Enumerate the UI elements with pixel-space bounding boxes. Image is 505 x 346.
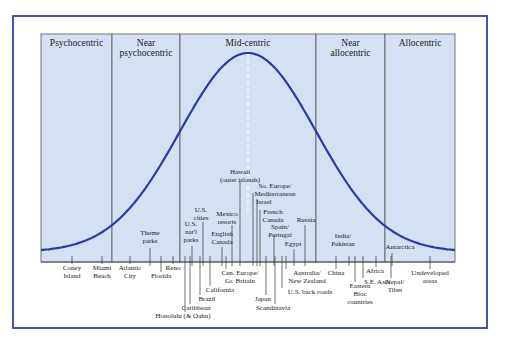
svg-text:Israel: Israel	[256, 198, 272, 206]
svg-text:Caribbean: Caribbean	[182, 304, 211, 312]
svg-text:English: English	[211, 230, 233, 238]
svg-text:nat'l: nat'l	[185, 228, 197, 236]
svg-text:Antarctica: Antarctica	[385, 243, 415, 251]
svg-text:Spain/: Spain/	[271, 223, 289, 231]
svg-text:Scandinavia: Scandinavia	[256, 304, 291, 312]
svg-text:Island: Island	[63, 272, 81, 280]
svg-text:Mexico: Mexico	[216, 210, 238, 218]
svg-text:U.S. back roads: U.S. back roads	[288, 288, 333, 296]
svg-text:Nepal/: Nepal/	[386, 278, 405, 286]
svg-text:Reno: Reno	[166, 264, 181, 272]
segment-psychocentric: Psychocentric	[41, 34, 112, 262]
svg-text:Tibet: Tibet	[388, 286, 403, 294]
svg-text:Atlantic: Atlantic	[119, 264, 142, 272]
svg-text:Florida: Florida	[151, 272, 172, 280]
svg-text:Miami: Miami	[93, 264, 112, 272]
segment-label: psychocentric	[120, 48, 173, 58]
destination-label: Brazil	[198, 256, 215, 303]
svg-text:countries: countries	[347, 298, 373, 306]
svg-text:Brazil: Brazil	[198, 295, 215, 303]
svg-text:Portugal: Portugal	[268, 231, 292, 239]
svg-text:French: French	[263, 208, 283, 216]
svg-text:Japan: Japan	[255, 295, 271, 303]
svg-text:So. Europe/: So. Europe/	[258, 182, 291, 190]
svg-text:New Zealand: New Zealand	[288, 277, 326, 285]
svg-text:City: City	[124, 272, 137, 280]
svg-text:Australia/: Australia/	[293, 269, 321, 277]
svg-text:China: China	[328, 269, 346, 277]
svg-text:Hawaii: Hawaii	[230, 168, 250, 176]
svg-text:Russia: Russia	[297, 216, 317, 224]
svg-text:(outer islands): (outer islands)	[220, 176, 261, 184]
destination-label: Caribbean	[182, 256, 211, 312]
svg-text:Pakistan: Pakistan	[331, 240, 355, 248]
svg-text:Coney: Coney	[63, 264, 82, 272]
segment-label: Psychocentric	[50, 38, 103, 48]
svg-text:Beach: Beach	[93, 272, 111, 280]
svg-text:Honolulu (& Oahu): Honolulu (& Oahu)	[155, 312, 211, 320]
svg-text:Africa: Africa	[366, 267, 385, 275]
svg-text:Undeveloped: Undeveloped	[411, 269, 449, 277]
svg-text:Cen. Europe/: Cen. Europe/	[222, 269, 259, 277]
svg-text:Theme: Theme	[140, 229, 159, 237]
segment-label: allocentric	[330, 48, 370, 58]
svg-text:Mediterranean: Mediterranean	[255, 190, 296, 198]
segment-label: Near	[137, 38, 156, 48]
svg-text:parks: parks	[183, 236, 198, 244]
destination-label: Japan	[255, 256, 271, 303]
svg-text:areas: areas	[423, 277, 438, 285]
segment-label: Allocentric	[399, 38, 442, 48]
segment-regions: PsychocentricNearpsychocentricMid-centri…	[41, 34, 455, 262]
svg-text:Egypt: Egypt	[285, 240, 302, 248]
svg-text:Bloc: Bloc	[353, 290, 366, 298]
segment-label: Mid-centric	[226, 38, 271, 48]
psychographic-curve-diagram: PsychocentricNearpsychocentricMid-centri…	[0, 0, 505, 346]
svg-text:U.S.: U.S.	[195, 206, 208, 214]
segment-allocentric: Allocentric	[385, 34, 455, 262]
svg-text:parks: parks	[142, 237, 157, 245]
svg-text:resorts: resorts	[218, 218, 237, 226]
segment-label: Near	[341, 38, 360, 48]
svg-text:California: California	[206, 286, 235, 294]
svg-text:Canada: Canada	[212, 238, 234, 246]
svg-text:India/: India/	[335, 232, 351, 240]
svg-text:Gr. Britain: Gr. Britain	[225, 277, 255, 285]
svg-text:U.S.: U.S.	[185, 220, 198, 228]
